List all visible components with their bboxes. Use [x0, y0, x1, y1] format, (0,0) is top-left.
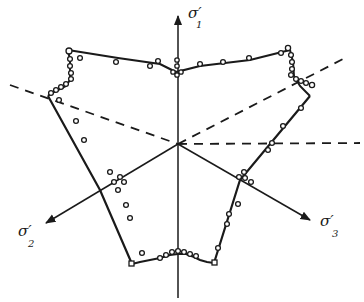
experimental-data-points — [49, 45, 315, 266]
svg-text:3: 3 — [332, 228, 338, 239]
axis-label-sigma3: σ′ 3 — [320, 212, 338, 239]
axis-label-sigma1: σ′ 1 — [188, 4, 202, 30]
svg-text:2: 2 — [27, 238, 34, 249]
svg-text:1: 1 — [196, 19, 202, 30]
yield-locus-outline — [48, 50, 310, 264]
dashed-reference-lines — [10, 58, 360, 144]
axis-label-sigma2: σ′ 2 — [18, 222, 34, 249]
yield-locus-diagram: σ′ 1 σ′ 2 σ′ 3 — [0, 0, 364, 302]
sigma3-axis — [178, 144, 310, 220]
